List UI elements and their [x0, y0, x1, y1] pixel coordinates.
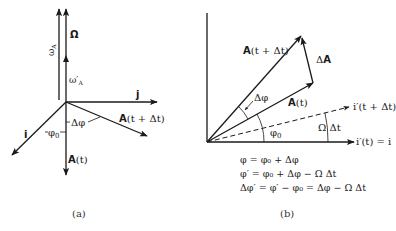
omega-a-label: ωA [46, 44, 57, 56]
i-axis [12, 102, 66, 155]
a-t-dt-label: A(t + Δt) [243, 45, 289, 56]
omega-dt-label: Ω Δt [318, 122, 341, 133]
omega-a-prime-label: ω′A [69, 75, 83, 86]
i-prime-t-dt-label: i′(t + Δt) [353, 101, 396, 112]
i-prime-t-label: i′(t) = i [356, 136, 391, 147]
omega-a-prime-arrowhead [63, 55, 69, 62]
delta-phi-label: Δφ [71, 117, 85, 128]
a-t-label: A(t) [288, 97, 308, 108]
delta-phi-label: Δφ [254, 92, 268, 103]
i-label: i [24, 129, 27, 140]
delta-a-vector [302, 38, 313, 83]
equation-2: φ′ = φ₀ + Δφ − Ω Δt [240, 168, 337, 179]
phi0-label: φ0 [48, 127, 59, 140]
caption-b: (b) [280, 208, 294, 219]
omega-label: Ω [70, 29, 79, 40]
a-t-dt-label: A(t + Δt) [119, 113, 165, 124]
equation-1: φ = φ₀ + Δφ [240, 154, 299, 165]
panel-a: ωA Ω ω′A j i φ0 Δφ A(t) A(t + Δt) (a) [12, 9, 165, 219]
phi0-label: φ0 [270, 127, 281, 140]
a-t-label: A(t) [68, 154, 88, 165]
caption-a: (a) [72, 208, 86, 219]
delta-phi-arc [239, 107, 248, 119]
equation-3: Δφ′ = φ′ − φ₀ = Δφ − Ω Δt [240, 182, 366, 193]
delta-phi-pointer [245, 101, 253, 110]
delta-a-label: ΔA [316, 54, 331, 65]
panel-b: A(t + Δt) ΔA A(t) Δφ φ0 i′(t + Δt) Ω Δt … [207, 13, 396, 219]
j-label: j [135, 89, 139, 100]
delta-phi-leader-right [88, 117, 100, 122]
figure: ωA Ω ω′A j i φ0 Δφ A(t) A(t + Δt) (a) A(… [0, 0, 396, 231]
